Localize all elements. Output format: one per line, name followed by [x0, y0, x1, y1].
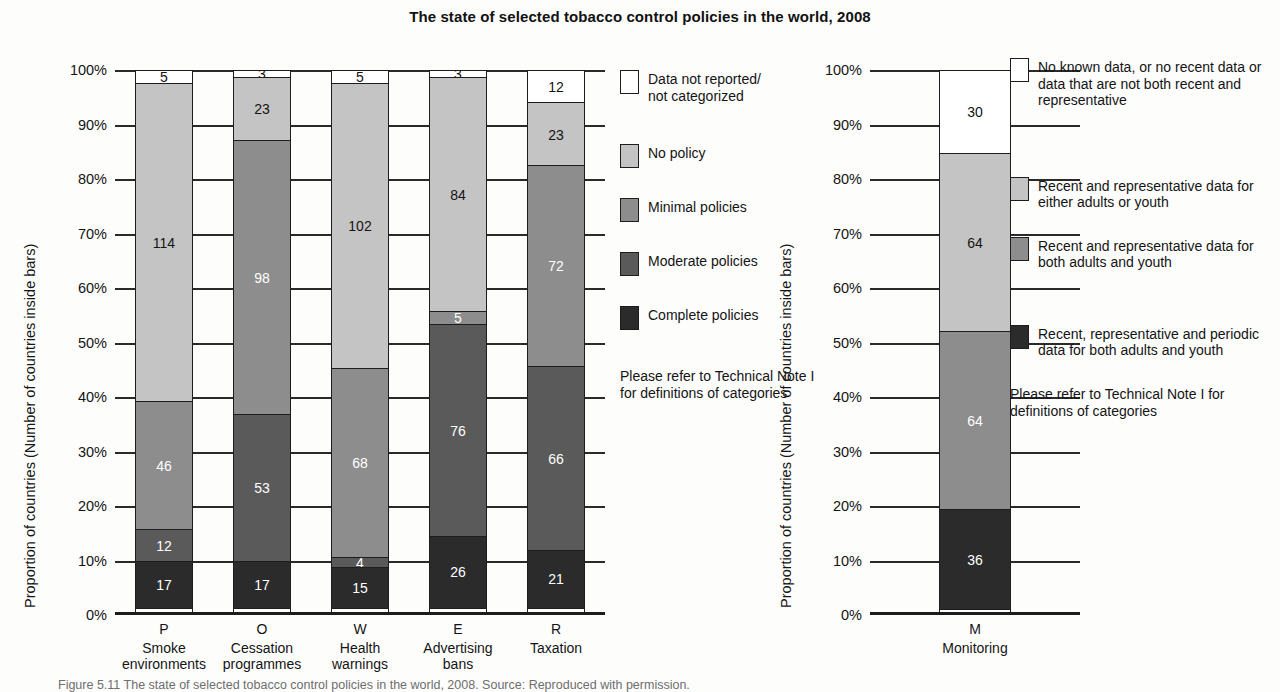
bar-segment-value: 114: [153, 236, 175, 250]
legend-swatch-icon: [620, 198, 639, 222]
y-axis-tick-left: 30%: [78, 444, 107, 460]
legend-swatch-icon: [1010, 58, 1029, 82]
bar-segment-value: 30: [967, 105, 983, 119]
legend-swatch-icon: [620, 252, 639, 276]
legend-item-both-adults-and-youth[interactable]: Recent and representative data for both …: [1010, 237, 1272, 271]
bar-segment[interactable]: 84: [430, 77, 486, 313]
bar-segment-value: 72: [548, 259, 564, 273]
y-axis-title-right: Proportion of countries (Number of count…: [778, 244, 794, 608]
bar-segment[interactable]: 23: [234, 77, 290, 142]
bar-segment-value: 64: [967, 236, 983, 250]
y-axis-tick-left: 60%: [78, 280, 107, 296]
bar-segment[interactable]: 17: [136, 561, 192, 609]
bar-segment[interactable]: 64: [940, 331, 1010, 511]
legend-swatch-icon: [620, 70, 639, 94]
x-axis-code: M: [920, 621, 1030, 637]
y-axis-tick-right: 90%: [833, 117, 862, 133]
stacked-bar-M[interactable]: 30646436: [939, 70, 1011, 615]
bar-segment-value: 64: [967, 414, 983, 428]
bar-segment-value: 17: [156, 578, 172, 592]
bar-segment[interactable]: 12: [136, 529, 192, 563]
legend-swatch-icon: [1010, 177, 1029, 201]
bar-segment-value: 23: [548, 128, 564, 142]
y-axis-tick-right: 20%: [833, 498, 862, 514]
y-axis-tick-right: 100%: [825, 62, 862, 78]
legend-item-label: Recent and representative data for eithe…: [1038, 177, 1272, 211]
bar-segment-value: 15: [352, 581, 368, 595]
legend-item-label: Recent, representative and periodic data…: [1038, 325, 1272, 359]
x-axis-label-W: WHealth warnings: [317, 621, 403, 672]
bar-segment[interactable]: 36: [940, 509, 1010, 610]
technical-note-right: Please refer to Technical Note I for def…: [1010, 386, 1240, 420]
x-axis-code: E: [415, 621, 501, 637]
x-axis-code: R: [513, 621, 599, 637]
bar-segment[interactable]: 72: [528, 165, 584, 367]
bar-segment-value: 23: [254, 102, 270, 116]
x-axis-name: Monitoring: [920, 640, 1030, 656]
legend-item-label: No known data, or no recent data or data…: [1038, 58, 1272, 109]
x-axis-label-P: PSmoke environments: [121, 621, 207, 672]
stacked-bar-R[interactable]: 1223726621: [527, 70, 585, 615]
legend-swatch-icon: [1010, 325, 1029, 349]
monitoring-legend: No known data, or no recent data or data…: [1010, 58, 1272, 359]
stacked-bar-P[interactable]: 5114461217: [135, 70, 193, 615]
y-axis-tick-right: 70%: [833, 226, 862, 242]
stacked-bar-W[interactable]: 510268415: [331, 70, 389, 615]
y-axis-tick-right: 60%: [833, 280, 862, 296]
bar-segment[interactable]: 17: [234, 561, 290, 609]
bar-segment[interactable]: 98: [234, 140, 290, 415]
bar-segment[interactable]: 15: [332, 567, 388, 609]
legend-item-no-known-data[interactable]: No known data, or no recent data or data…: [1010, 58, 1272, 109]
x-axis-name: Health warnings: [317, 640, 403, 672]
y-axis-tick-left: 40%: [78, 389, 107, 405]
bar-segment[interactable]: 53: [234, 414, 290, 563]
legend-swatch-icon: [620, 144, 639, 168]
bar-segment-value: 21: [548, 572, 564, 586]
bar-segment[interactable]: 30: [940, 70, 1010, 154]
bar-segment[interactable]: 68: [332, 368, 388, 559]
bar-segment[interactable]: 114: [136, 83, 192, 403]
bar-segment[interactable]: 46: [136, 401, 192, 530]
bar-segment-value: 102: [348, 219, 371, 233]
bar-segment[interactable]: 102: [332, 83, 388, 370]
bar-segment-value: 66: [548, 452, 564, 466]
page-title: The state of selected tobacco control po…: [0, 8, 1280, 25]
bar-segment-value: 17: [254, 578, 270, 592]
x-axis-code: O: [219, 621, 305, 637]
bar-segment[interactable]: 26: [430, 536, 486, 609]
bar-segment[interactable]: 23: [528, 102, 584, 167]
x-axis-name: Advertising bans: [415, 640, 501, 672]
x-axis-code: P: [121, 621, 207, 637]
legend-swatch-icon: [620, 306, 639, 330]
bar-segment[interactable]: 12: [528, 70, 584, 104]
bar-segment[interactable]: 66: [528, 366, 584, 551]
policies-plot-area: 100%90%80%70%60%50%40%30%20%10%0% 511446…: [115, 70, 605, 615]
bar-segment[interactable]: 21: [528, 550, 584, 609]
y-axis-tick-left: 70%: [78, 226, 107, 242]
stacked-bar-E[interactable]: 38457626: [429, 70, 487, 615]
y-axis-tick-left: 10%: [78, 553, 107, 569]
x-axis-label-O: OCessation programmes: [219, 621, 305, 672]
bar-segment[interactable]: 64: [940, 153, 1010, 333]
y-axis-tick-left: 20%: [78, 498, 107, 514]
y-axis-tick-right: 30%: [833, 444, 862, 460]
bar-segment-value: 46: [156, 459, 172, 473]
bar-segment[interactable]: 76: [430, 324, 486, 538]
y-axis-tick-left: 100%: [70, 62, 107, 78]
bar-segment-value: 76: [450, 424, 466, 438]
policies-chart-panel: Proportion of countries (Number of count…: [0, 48, 700, 668]
stacked-bar-O[interactable]: 323985317: [233, 70, 291, 615]
legend-item-periodic-both[interactable]: Recent, representative and periodic data…: [1010, 325, 1272, 359]
x-axis-label-E: EAdvertising bans: [415, 621, 501, 672]
bar-segment-value: 12: [548, 80, 564, 94]
bar-segment-value: 68: [352, 456, 368, 470]
y-axis-tick-right: 40%: [833, 389, 862, 405]
y-axis-tick-left: 0%: [86, 607, 107, 623]
x-axis-code: W: [317, 621, 403, 637]
legend-item-label: No policy: [648, 144, 706, 162]
legend-item-either-adults-or-youth[interactable]: Recent and representative data for eithe…: [1010, 177, 1272, 211]
bar-segment-value: 53: [254, 481, 270, 495]
policies-x-labels: PSmoke environmentsOCessation programmes…: [115, 615, 605, 672]
y-axis-tick-right: 0%: [841, 607, 862, 623]
